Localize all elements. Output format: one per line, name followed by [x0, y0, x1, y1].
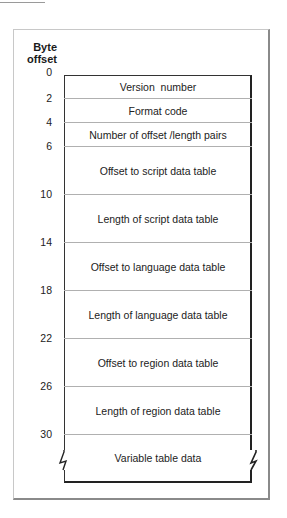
offset-label-26: 26: [22, 380, 52, 392]
field-label: Length of language data table: [89, 309, 228, 321]
field-version-number: Version number: [64, 75, 252, 99]
byte-offset-header: Byte offset: [20, 41, 57, 65]
field-label: Variable table data: [115, 452, 202, 464]
field-format-code: Format code: [64, 99, 252, 123]
header-line-1: Byte: [20, 41, 57, 53]
top-rule: [0, 2, 45, 3]
header-line-2: offset: [20, 53, 57, 65]
data-structure-table: Version number Format code Number of off…: [64, 75, 252, 483]
offset-label-2: 2: [22, 92, 52, 104]
field-label: Length of script data table: [98, 213, 219, 225]
diagram-page: Byte offset 0 2 4 6 10 14 18 22 26 30 Ve…: [0, 0, 287, 518]
field-script-length: Length of script data table: [64, 195, 252, 243]
field-region-offset: Offset to region data table: [64, 339, 252, 387]
field-label: Number of offset /length pairs: [89, 129, 227, 141]
field-label: Length of region data table: [96, 405, 221, 417]
field-script-offset: Offset to script data table: [64, 147, 252, 195]
left-break-zigzag-icon: [57, 450, 71, 470]
field-label: Offset to region data table: [98, 357, 219, 369]
field-label: Offset to script data table: [100, 165, 217, 177]
offset-label-10: 10: [22, 188, 52, 200]
field-region-length: Length of region data table: [64, 387, 252, 435]
field-label: Version number: [120, 81, 196, 93]
offset-label-14: 14: [22, 236, 52, 248]
offset-label-0: 0: [22, 66, 52, 78]
field-pair-count: Number of offset /length pairs: [64, 123, 252, 147]
offset-label-30: 30: [22, 428, 52, 440]
field-language-length: Length of language data table: [64, 291, 252, 339]
offset-label-6: 6: [22, 140, 52, 152]
right-break-zigzag-icon: [244, 450, 258, 470]
offset-label-22: 22: [22, 332, 52, 344]
field-label: Format code: [129, 105, 188, 117]
offset-label-18: 18: [22, 284, 52, 296]
field-language-offset: Offset to language data table: [64, 243, 252, 291]
offset-label-4: 4: [22, 116, 52, 128]
field-variable-data: Variable table data: [64, 435, 252, 481]
field-label: Offset to language data table: [91, 261, 226, 273]
